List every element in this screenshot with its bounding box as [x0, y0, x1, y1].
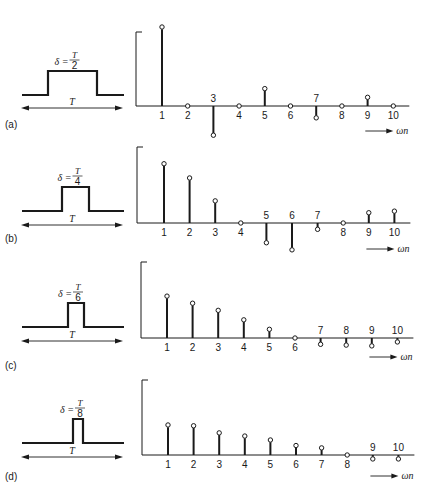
stem-6: 6	[289, 210, 295, 252]
x-axis-label: ωn	[401, 470, 413, 481]
stem-3: 3	[212, 199, 218, 238]
stem-marker	[264, 241, 268, 245]
panel-b: δ =T4T(b)12345678910ωn	[5, 147, 410, 254]
stem-1: 1	[159, 25, 165, 121]
tick-label: 6	[289, 210, 295, 221]
tick-label: 10	[389, 227, 401, 238]
stem-2: 2	[185, 104, 191, 121]
tick-label: 7	[313, 93, 319, 104]
stem-9: 9	[365, 95, 371, 121]
x-axis-label: ωn	[397, 243, 409, 254]
tick-label: 8	[344, 459, 350, 470]
stem-8: 8	[339, 104, 345, 121]
panel-label: (b)	[5, 233, 17, 244]
tick-label: 7	[319, 459, 325, 470]
arrow-right-icon	[390, 355, 397, 360]
tick-label: 3	[211, 93, 217, 104]
stem-marker	[213, 199, 217, 203]
stem-marker	[395, 340, 399, 344]
period-label: T	[69, 329, 76, 340]
arrow-right-head-icon	[115, 339, 123, 344]
stem-5: 5	[267, 327, 273, 353]
tick-label: 3	[215, 342, 221, 353]
stem-3: 3	[215, 308, 221, 353]
tick-label: 7	[315, 210, 321, 221]
arrow-right-icon	[387, 247, 394, 252]
stem-marker	[392, 209, 396, 213]
stem-10: 10	[392, 325, 404, 344]
tick-label: 10	[393, 442, 405, 453]
stem-marker	[391, 104, 395, 108]
arrow-right-head-icon	[115, 106, 123, 111]
stem-marker	[216, 308, 220, 312]
stem-marker	[263, 86, 267, 90]
stem-9: 9	[369, 325, 375, 348]
spectrum-figure: δ =T2T(a)12345678910ωnδ =T4T(b)123456789…	[0, 0, 433, 501]
stem-marker	[290, 248, 294, 252]
tick-label: 4	[242, 459, 248, 470]
panel-label: (a)	[5, 119, 17, 130]
tick-label: 8	[339, 110, 345, 121]
stem-4: 4	[238, 221, 244, 238]
pulse-waveform	[22, 303, 124, 327]
period-label: T	[69, 96, 76, 107]
stem-9: 9	[370, 442, 376, 461]
tick-label: 5	[264, 210, 270, 221]
arrow-left-head-icon	[21, 223, 29, 228]
panel-label: (c)	[5, 360, 17, 371]
stem-marker	[242, 318, 246, 322]
x-axis-label: ωn	[400, 351, 412, 362]
arrow-left-head-icon	[21, 106, 29, 111]
stem-marker	[191, 424, 195, 428]
tick-label: 1	[159, 110, 165, 121]
panel-label: (d)	[5, 471, 17, 482]
stem-3: 3	[216, 431, 222, 470]
stem-7: 7	[315, 210, 321, 232]
stem-10: 10	[393, 442, 405, 461]
x-axis-label: ωn	[396, 125, 408, 136]
tick-label: 9	[365, 110, 371, 121]
stem-marker	[293, 336, 297, 340]
arrow-left-head-icon	[21, 339, 29, 344]
fraction-denominator: 6	[75, 292, 81, 303]
stem-7: 7	[313, 93, 319, 120]
stem-marker	[186, 104, 190, 108]
stem-marker	[268, 438, 272, 442]
tick-label: 3	[216, 459, 222, 470]
stem-marker	[294, 443, 298, 447]
tick-label: 6	[292, 342, 298, 353]
stem-marker	[367, 211, 371, 215]
stem-8: 8	[340, 221, 346, 238]
stem-marker	[365, 95, 369, 99]
fraction-numerator: T	[75, 282, 81, 292]
tick-label: 1	[165, 459, 171, 470]
stem-marker	[217, 431, 221, 435]
delta-label: δ =	[55, 56, 69, 67]
tick-label: 5	[262, 110, 268, 121]
stem-2: 2	[191, 424, 197, 470]
fraction-denominator: 2	[72, 60, 78, 71]
stem-7: 7	[318, 325, 324, 347]
stem-8: 8	[343, 325, 349, 347]
stem-6: 6	[293, 443, 299, 470]
tick-label: 6	[288, 110, 294, 121]
tick-label: 5	[268, 459, 274, 470]
tick-label: 10	[392, 325, 404, 336]
stem-marker	[165, 294, 169, 298]
stem-marker	[243, 434, 247, 438]
fraction-numerator: T	[77, 398, 83, 408]
tick-label: 1	[161, 227, 167, 238]
stem-marker	[211, 133, 215, 137]
delta-label: δ =	[60, 404, 74, 415]
pulse-waveform	[22, 419, 124, 443]
fraction-numerator: T	[72, 50, 78, 60]
period-label: T	[69, 445, 76, 456]
stem-8: 8	[344, 453, 350, 470]
stem-marker	[344, 343, 348, 347]
stem-2: 2	[190, 301, 196, 353]
stem-5: 5	[268, 438, 274, 470]
stem-marker	[341, 221, 345, 225]
tick-label: 9	[366, 227, 372, 238]
tick-label: 4	[238, 227, 244, 238]
fraction-numerator: T	[75, 166, 81, 176]
